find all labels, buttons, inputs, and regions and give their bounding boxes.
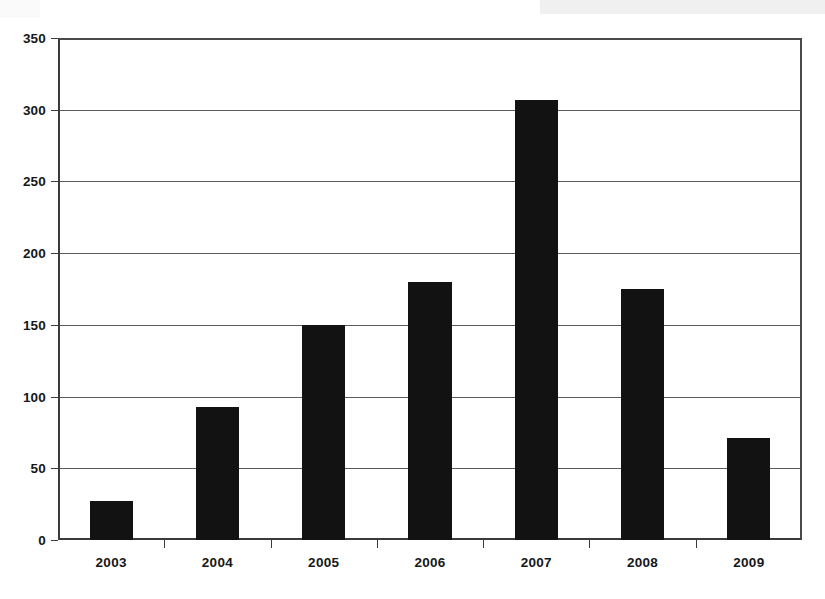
x-axis-tick-label: 2006 bbox=[414, 555, 445, 570]
bar-chart-figure: 050100150200250300350 200320042005200620… bbox=[0, 0, 825, 599]
x-axis-tick-label: 2003 bbox=[96, 555, 127, 570]
x-axis-label-group: 2003200420052006200720082009 bbox=[0, 0, 825, 599]
x-axis-tick-label: 2007 bbox=[521, 555, 552, 570]
x-axis-tick-label: 2004 bbox=[202, 555, 233, 570]
x-axis-tick-label: 2005 bbox=[308, 555, 339, 570]
x-axis-tick-label: 2008 bbox=[627, 555, 658, 570]
x-axis-tick-label: 2009 bbox=[733, 555, 764, 570]
